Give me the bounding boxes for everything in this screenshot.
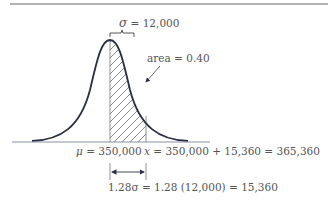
normal-curve-diagram [0, 0, 328, 206]
sigma-label: σ = 12,000 [119, 16, 179, 30]
z-label: 1.28σ = 1.28 (12,000) = 15,360 [108, 181, 278, 193]
area-pointer-arrow [146, 66, 160, 82]
mu-label: μ = 350,000 [76, 145, 142, 157]
sigma-brace [110, 30, 134, 37]
x-label: x = 350,000 + 15,360 = 365,360 [144, 145, 320, 157]
area-label: area = 0.40 [147, 52, 210, 64]
